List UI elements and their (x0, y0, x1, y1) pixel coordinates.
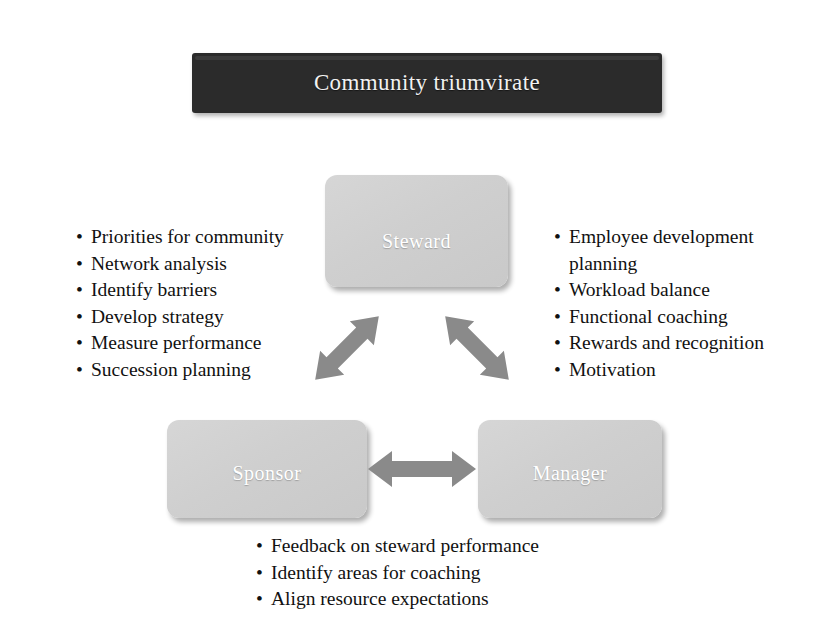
sponsor-duties-list: Priorities for community Network analysi… (76, 224, 316, 383)
list-item: Workload balance (554, 277, 804, 304)
sponsor-manager-arrow-icon (366, 446, 478, 492)
list-item: Identify barriers (76, 277, 316, 304)
shared-duties-list: Feedback on steward performance Identify… (256, 533, 596, 613)
diagram-title-text: Community triumvirate (314, 70, 540, 96)
list-item: Measure performance (76, 330, 316, 357)
list-item: Motivation (554, 357, 804, 384)
list-item: Network analysis (76, 251, 316, 278)
node-manager: Manager (478, 420, 662, 518)
community-triumvirate-diagram: Community triumvirate Steward Sponsor Ma… (0, 0, 832, 626)
manager-duties-list: Employee development planning Workload b… (554, 224, 804, 383)
node-steward: Steward (325, 175, 508, 287)
diagram-title-banner: Community triumvirate (192, 53, 662, 113)
node-manager-label: Manager (533, 462, 608, 485)
list-item: Rewards and recognition (554, 330, 804, 357)
steward-manager-arrow-icon (422, 288, 532, 408)
list-item: Develop strategy (76, 304, 316, 331)
node-sponsor: Sponsor (167, 420, 367, 518)
list-item: Align resource expectations (256, 586, 596, 613)
list-item: Functional coaching (554, 304, 804, 331)
node-sponsor-label: Sponsor (232, 462, 301, 485)
list-item: Succession planning (76, 357, 316, 384)
node-steward-label: Steward (382, 230, 451, 253)
list-item: Priorities for community (76, 224, 316, 251)
list-item: Identify areas for coaching (256, 560, 596, 587)
list-item: Employee development planning (554, 224, 804, 277)
list-item: Feedback on steward performance (256, 533, 596, 560)
